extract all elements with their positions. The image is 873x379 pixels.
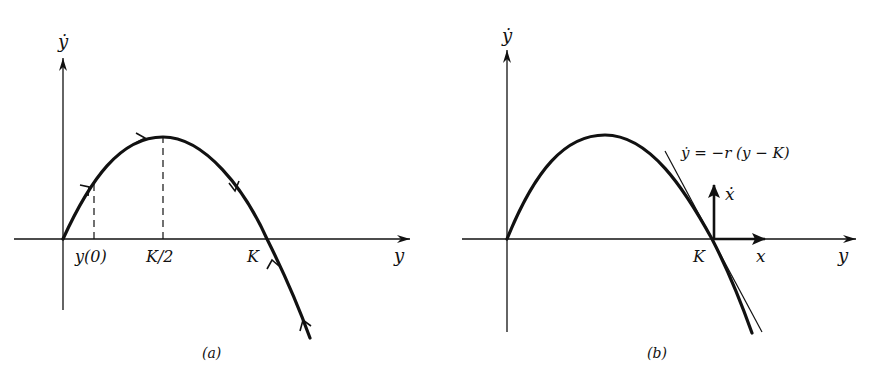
tick-label-k-b: K: [692, 247, 706, 266]
tick-label-y0: y(0): [74, 247, 107, 266]
x-label: x: [756, 246, 766, 266]
tangent-equation-label: ẏ = −r (y − K): [680, 144, 790, 162]
panel-b: ẏ y K ẏ = −r (y − K) ẋ x (b): [462, 25, 856, 361]
tick-label-k-a: K: [246, 247, 260, 266]
y-axis-label-b: y: [837, 245, 849, 266]
flow-arrows-a: [80, 133, 311, 331]
figure-canvas: ẏ y y(0) K/2 K (a) ẏ y K ẏ = −r (y − K) …: [0, 0, 873, 379]
panel-a: ẏ y y(0) K/2 K (a): [14, 31, 410, 361]
xdot-label: ẋ: [725, 184, 735, 204]
tangent-line: [665, 151, 762, 332]
ydot-axis-label-b: ẏ: [501, 25, 513, 46]
tick-label-half-k: K/2: [145, 247, 174, 266]
logistic-curve-a: [63, 137, 310, 338]
y-axis-label-a: y: [393, 245, 405, 266]
caption-a: (a): [202, 345, 221, 361]
caption-b: (b): [647, 345, 667, 361]
ydot-axis-label-a: ẏ: [57, 31, 69, 52]
